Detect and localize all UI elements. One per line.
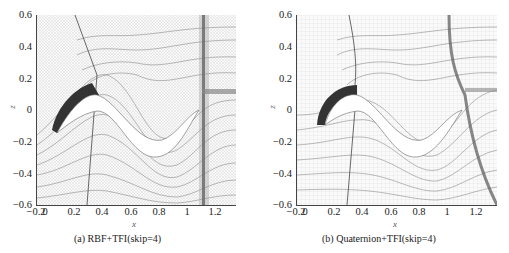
y-tick: 0.4 [262,42,292,52]
panel-a: z 0.6 0.4 0.2 0 −0.2 −0.4 −0.6 [0,0,255,253]
mesh-graphic [297,15,497,205]
x-tick: 0.8 [404,207,434,217]
y-tick: 0.2 [262,74,292,84]
x-axis-label: x [393,219,397,229]
y-tick: 0.2 [2,74,32,84]
y-tick: 0.6 [262,10,292,20]
x-tick: 1.2 [200,207,230,217]
x-tick: 0.2 [59,207,89,217]
y-tick: 0 [2,105,32,115]
y-tick: −0.2 [2,137,32,147]
x-tick: 1 [432,207,462,217]
caption-b: (b) Quaternion+TFI(skip=4) [322,233,436,244]
x-tick: 0.4 [87,207,117,217]
x-tick: 0.6 [116,207,146,217]
x-tick: 1 [172,207,202,217]
y-tick: −0.2 [262,137,292,147]
y-tick: 0.4 [2,42,32,52]
mesh-graphic [37,15,236,205]
x-axis-label: x [132,219,136,229]
mesh-plot-a [36,15,236,206]
panel-b: z 0.6 0.4 0.2 0 −0.2 −0.4 −0.6 [260,0,509,253]
y-tick: 0 [262,105,292,115]
x-tick: 0 [30,207,60,217]
mesh-plot-b [296,15,497,206]
x-tick: 0.4 [347,207,377,217]
y-tick: 0.6 [2,10,32,20]
x-tick: 0.2 [319,207,349,217]
x-tick: 0 [290,207,320,217]
x-tick: 0.6 [376,207,406,217]
x-tick: 0.8 [144,207,174,217]
y-tick: −0.4 [2,169,32,179]
caption-a: (a) RBF+TFI(skip=4) [74,233,161,244]
x-tick: 1.2 [461,207,491,217]
y-tick: −0.4 [262,169,292,179]
